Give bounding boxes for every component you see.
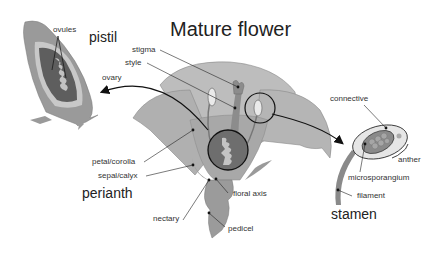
label-floral-axis: floral axis [233,190,267,198]
label-connective: connective [330,95,368,103]
label-ovules: ovules [53,26,76,34]
label-petal-corolla: petal/corolla [92,158,135,166]
label-stigma: stigma [132,46,156,54]
section-label-perianth: perianth [82,186,133,200]
label-filament: filament [357,192,385,200]
label-sepal-calyx: sepal/calyx [98,172,138,180]
label-style: style [125,59,141,67]
section-label-stamen: stamen [331,207,377,221]
flower-diagram: Mature flower pistil perianth stamen ovu… [0,0,446,253]
diagram-title: Mature flower [170,19,291,39]
section-label-pistil: pistil [89,30,117,44]
label-microsporangium: microsporangium [348,174,409,182]
label-anther: anther [398,156,421,164]
label-pedicel: pedicel [228,225,253,233]
label-ovary: ovary [102,74,122,82]
label-nectary: nectary [153,215,179,223]
pistil-detail [24,21,99,130]
